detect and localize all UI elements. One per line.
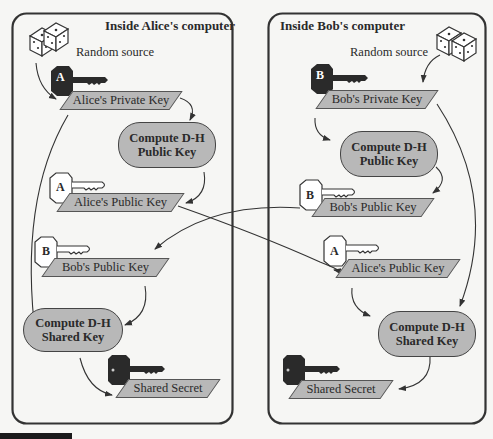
alice-private-key: Alice's Private Key	[66, 91, 176, 110]
bob-own-public-key: Bob's Public Key	[318, 198, 428, 217]
bob-private-key-badge: B	[316, 68, 324, 83]
alice-received-public-key-badge: B	[42, 244, 50, 259]
bob-private-key: Bob's Private Key	[322, 90, 432, 109]
bob-received-public-key-badge: A	[330, 244, 339, 259]
alice-received-bob-public-key: Bob's Public Key	[48, 258, 163, 277]
bob-compute-public-key: Compute D-HPublic Key	[340, 131, 438, 177]
arrow-alice-private-to-compute	[180, 98, 192, 120]
bob-dice-icon	[437, 27, 476, 61]
alice-own-public-key: Alice's Public Key	[63, 193, 178, 212]
bob-random-source-label: Random source	[350, 45, 428, 60]
bob-public-key-badge: B	[306, 188, 314, 203]
alice-dice-icon	[30, 23, 68, 56]
alice-compute-public-key: Compute D-HPublic Key	[118, 122, 216, 168]
bob-shared-secret: Shared Secret	[295, 380, 387, 399]
page-edge-bar	[0, 433, 72, 439]
arrow-bob-private-to-compute	[315, 118, 330, 140]
alice-compute-shared-key: Compute D-HShared Key	[23, 308, 123, 352]
bob-compute-shared-key: Compute D-HShared Key	[378, 311, 476, 357]
arrow-bob-public-to-alice	[155, 207, 300, 249]
arrow-bob-public-to-alice-shared	[125, 286, 146, 325]
alice-shared-secret: Shared Secret	[122, 379, 214, 398]
alice-private-key-badge: A	[56, 70, 65, 85]
alice-computer-title: Inside Alice's computer	[105, 18, 235, 34]
arrow-compute-to-alice-public	[186, 172, 205, 203]
alice-random-source-label: Random source	[76, 45, 154, 60]
bob-computer-title: Inside Bob's computer	[280, 18, 405, 34]
arrow-bob-shared-to-secret	[399, 356, 430, 389]
diagram-graphics	[0, 0, 493, 439]
arrow-alice-public-to-bob-shared	[352, 288, 370, 316]
arrow-compute-to-bob-public	[433, 167, 442, 193]
bob-received-alice-public-key: Alice's Public Key	[342, 259, 454, 278]
arrow-alice-shared-to-secret	[80, 358, 112, 395]
arrow-alice-private-to-shared	[31, 115, 68, 340]
